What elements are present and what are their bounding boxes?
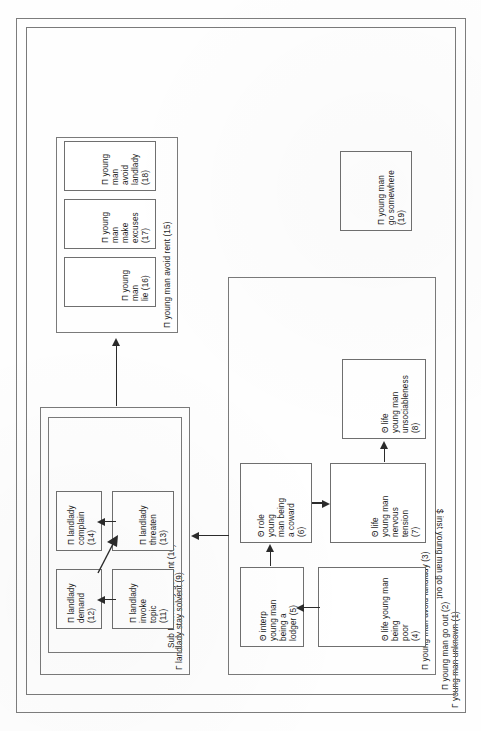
edge-7-to-8 — [384, 449, 385, 462]
edge-13-to-14 — [104, 521, 116, 522]
node-label-19: Π young man go somewhere (19) — [377, 155, 407, 225]
node-box-11[interactable]: Π landlady invoke topic (11) — [112, 569, 174, 629]
node-label-6: Θ role young man being a coward (6) — [257, 467, 307, 537]
node-box-8[interactable]: Θ life young man unsociableness (8) — [342, 359, 426, 439]
node-label-5: Θ interp young man being a lodger (5) — [259, 571, 299, 641]
node-box-16[interactable]: Π young man lie (16) — [64, 257, 156, 307]
node-label-11: Π landlady invoke topic (11) — [129, 573, 169, 623]
node-label-8: Θ life young man unsociableness (8) — [381, 363, 421, 433]
edge-3-to-9 — [199, 535, 229, 536]
node-label-13: Π landlady threaten (13) — [139, 495, 169, 545]
node-box-17[interactable]: Π young man make excuses (17) — [64, 199, 156, 249]
node-box-5[interactable]: Θ interp young man being a lodger (5) — [240, 567, 304, 647]
edge-6-to-7-head — [322, 500, 330, 508]
node-label-17: Π young man make excuses (17) — [101, 203, 151, 243]
footer-instantiation-note: $ inst young man go out — [434, 509, 444, 599]
edge-5-to-6 — [270, 552, 271, 566]
node-label-14: Π landlady complain (14) — [67, 495, 97, 545]
edge-13-to-14-head — [97, 518, 105, 526]
edge-4-to-5 — [304, 607, 320, 608]
edge-10-to-15 — [116, 346, 117, 406]
edge-11-to-12-head — [97, 596, 105, 604]
node-label-7: Θ life young man nervous tension (7) — [371, 467, 421, 537]
node-label-15: Π young man avoid rent (15) — [163, 222, 173, 328]
edge-11-to-12 — [104, 599, 116, 600]
node-box-7[interactable]: Θ life young man nervous tension (7) — [330, 463, 426, 543]
edge-6-to-7 — [312, 502, 322, 504]
edge-5-to-6-head — [266, 544, 274, 552]
node-box-18[interactable]: Π young man avoid landlady (18) — [64, 141, 156, 191]
node-label-2: Π young man go out (2) — [441, 602, 451, 690]
node-label-4: Θ life young man being poor (4) — [381, 571, 421, 641]
edge-12-to-13 — [96, 529, 122, 575]
edge-10-to-15-head — [112, 338, 120, 346]
rotated-figure-canvas: Γ young man unknown (1) Π young man go o… — [0, 0, 481, 731]
node-label-16: Π young man lie (16) — [121, 261, 151, 301]
edge-7-to-8-head — [380, 441, 388, 449]
edge-4-to-5-head — [296, 604, 304, 612]
node-box-4[interactable]: Θ life young man being poor (4) — [318, 567, 426, 647]
figure-page: Γ young man unknown (1) Π young man go o… — [0, 0, 481, 731]
edge-3-to-9-head — [191, 532, 199, 540]
node-box-6[interactable]: Θ role young man being a coward (6) — [240, 463, 312, 543]
node-label-18: Π young man avoid landlady (18) — [101, 145, 151, 185]
node-label-12: Π landlady demand (12) — [67, 573, 97, 623]
node-box-12[interactable]: Π landlady demand (12) — [56, 569, 102, 629]
node-box-19[interactable]: Π young man go somewhere (19) — [340, 151, 412, 231]
